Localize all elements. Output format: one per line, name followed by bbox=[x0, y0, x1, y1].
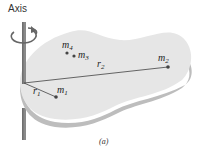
figure-caption: (a) bbox=[99, 137, 109, 146]
axis-rod-upper-shade bbox=[22, 22, 24, 84]
rigid-body-diagram: Axis m1 m2 m3 m4 r1 r2 (a) bbox=[0, 0, 199, 155]
mass-dot-m2 bbox=[166, 65, 170, 69]
mass-dot-m1 bbox=[54, 95, 58, 99]
rigid-body-top bbox=[20, 30, 191, 119]
mass-dot-m3 bbox=[72, 54, 75, 57]
axis-rod-lower-shade bbox=[22, 108, 24, 140]
axis-label: Axis bbox=[8, 3, 27, 14]
mass-dot-m4 bbox=[65, 51, 68, 54]
